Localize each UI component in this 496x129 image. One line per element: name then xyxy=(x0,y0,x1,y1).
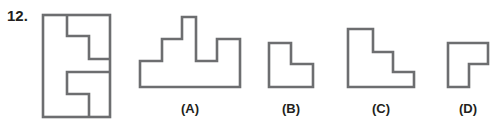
option-a-label[interactable]: (A) xyxy=(181,101,199,116)
option-c-shape[interactable] xyxy=(348,29,414,87)
figure-canvas xyxy=(0,0,496,129)
option-a-shape[interactable] xyxy=(140,17,240,87)
option-d-label[interactable]: (D) xyxy=(459,101,477,116)
option-d-shape[interactable] xyxy=(448,43,488,87)
option-c-label[interactable]: (C) xyxy=(372,101,390,116)
option-b-label[interactable]: (B) xyxy=(282,101,300,116)
option-b-shape[interactable] xyxy=(269,43,313,87)
source-rectangle xyxy=(43,15,110,117)
